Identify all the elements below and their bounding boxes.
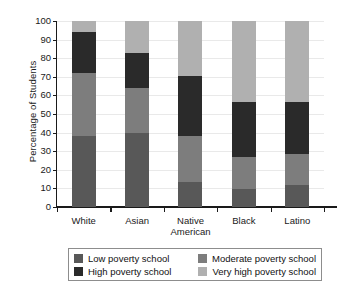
y-tick-label: 50 — [40, 109, 51, 119]
bar-stack-native-american — [178, 21, 202, 207]
x-tick-label-latino: Latino — [262, 215, 332, 226]
bar-segment-very-high-poverty-school — [285, 21, 309, 102]
bar-segment-high-poverty-school — [125, 53, 149, 88]
x-tick-mark — [164, 207, 165, 212]
bar-group — [271, 21, 324, 207]
y-tick-label: 40 — [40, 128, 51, 138]
legend-swatch-moderate-poverty — [198, 254, 207, 263]
legend-row: High poverty school Very high poverty sc… — [74, 265, 316, 278]
legend-label-low-poverty: Low poverty school — [88, 254, 169, 264]
legend-swatch-low-poverty — [74, 254, 83, 263]
legend-swatch-very-high-poverty — [198, 267, 207, 276]
bar-segment-moderate-poverty-school — [72, 73, 96, 136]
bar-segment-low-poverty-school — [232, 189, 256, 207]
bar-group — [217, 21, 270, 207]
x-tick-mark — [271, 207, 272, 212]
bar-segment-very-high-poverty-school — [125, 21, 149, 53]
bar-segment-high-poverty-school — [72, 32, 96, 73]
y-tick-label: 90 — [40, 35, 51, 45]
y-tick-label: 10 — [40, 184, 51, 194]
bar-segment-low-poverty-school — [125, 133, 149, 207]
legend-label-high-poverty: High poverty school — [88, 267, 171, 277]
legend-label-very-high-poverty: Very high poverty school — [212, 267, 316, 277]
bar-segment-very-high-poverty-school — [72, 21, 96, 32]
y-axis-title: Percentage of Students — [27, 32, 38, 192]
bar-segment-high-poverty-school — [285, 102, 309, 154]
chart-legend: Low poverty school Moderate poverty scho… — [68, 248, 322, 281]
legend-entry-very-high-poverty: Very high poverty school — [198, 265, 316, 278]
bar-segment-very-high-poverty-school — [178, 21, 202, 76]
bar-segment-low-poverty-school — [178, 182, 202, 207]
bar-segment-moderate-poverty-school — [285, 154, 309, 185]
legend-label-moderate-poverty: Moderate poverty school — [212, 254, 316, 264]
bar-stack-asian — [125, 21, 149, 207]
y-tick-label: 70 — [40, 72, 51, 82]
y-tick-label: 60 — [40, 91, 51, 101]
y-tick-label: 100 — [35, 16, 51, 26]
x-tick-mark — [324, 207, 325, 212]
bar-segment-very-high-poverty-school — [232, 21, 256, 102]
x-tick-mark — [110, 207, 111, 212]
x-tick-mark — [57, 207, 58, 212]
legend-entry-moderate-poverty: Moderate poverty school — [198, 252, 316, 265]
bar-segment-moderate-poverty-school — [178, 136, 202, 182]
legend-entry-low-poverty: Low poverty school — [74, 252, 198, 265]
bar-group — [110, 21, 163, 207]
bar-stack-black — [232, 21, 256, 207]
legend-row: Low poverty school Moderate poverty scho… — [74, 252, 316, 265]
legend-entry-high-poverty: High poverty school — [74, 265, 198, 278]
bar-group — [57, 21, 110, 207]
y-tick-label: 80 — [40, 53, 51, 63]
legend-swatch-high-poverty — [74, 267, 83, 276]
y-tick-label: 0 — [46, 202, 51, 212]
bar-segment-low-poverty-school — [72, 136, 96, 207]
bar-segment-low-poverty-school — [285, 185, 309, 207]
y-tick-label: 30 — [40, 146, 51, 156]
bar-segment-high-poverty-school — [232, 102, 256, 157]
stacked-bar-chart: Percentage of Students 01020304050607080… — [0, 0, 363, 293]
bar-segment-moderate-poverty-school — [125, 88, 149, 133]
bar-segment-moderate-poverty-school — [232, 157, 256, 190]
bar-stack-latino — [285, 21, 309, 207]
bar-segment-high-poverty-school — [178, 76, 202, 136]
x-tick-mark — [217, 207, 218, 212]
plot-area: 0102030405060708090100 WhiteAsianNative … — [57, 21, 324, 207]
bar-stack-white — [72, 21, 96, 207]
bar-group — [164, 21, 217, 207]
y-tick-label: 20 — [40, 165, 51, 175]
